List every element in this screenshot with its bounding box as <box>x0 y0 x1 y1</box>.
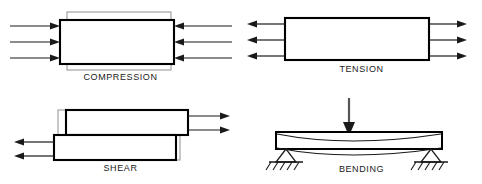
shear-lower-left-arrows <box>14 138 54 159</box>
label-shear: SHEAR <box>0 163 241 173</box>
shear-deformed-lower-block <box>54 135 176 160</box>
panel-tension <box>241 0 482 92</box>
tension-deformed-block <box>285 18 429 60</box>
label-bending: BENDING <box>241 164 482 174</box>
label-tension: TENSION <box>241 64 482 74</box>
tension-right-arrows <box>429 20 467 59</box>
shear-upper-right-arrows <box>188 112 230 133</box>
bending-load-arrow <box>343 98 355 136</box>
label-compression: COMPRESSION <box>0 72 241 82</box>
compression-right-arrows <box>174 22 232 61</box>
stress-types-figure: COMPRESSION <box>0 0 482 184</box>
shear-deformed-upper-block <box>66 110 188 135</box>
tension-diagram <box>241 0 482 92</box>
tension-left-arrows <box>247 20 285 59</box>
compression-left-arrows <box>10 22 60 61</box>
compression-deformed-block <box>60 20 174 64</box>
